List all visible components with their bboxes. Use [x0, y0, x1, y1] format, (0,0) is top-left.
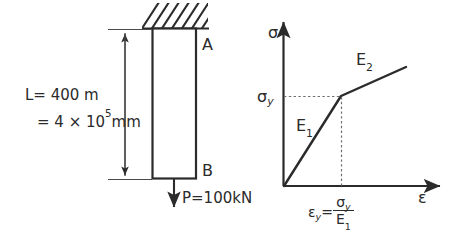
length-unit: mm: [112, 113, 141, 131]
sigma-y-label: σy: [257, 89, 274, 105]
length-label-line-1: L= 400 m: [25, 88, 99, 103]
equals-sign: =: [321, 204, 333, 220]
length-label-line-2: = 4 × 105mm: [37, 113, 141, 130]
e1-subscript: 1: [306, 127, 313, 140]
multiplication-sign: ×: [69, 113, 82, 131]
bar-member: [153, 29, 197, 179]
yield-strain-formula: εy= σy E1: [308, 196, 354, 230]
yield-strain-fraction: σy E1: [333, 195, 354, 229]
e2-subscript: 2: [366, 61, 373, 74]
length-base: 10: [81, 113, 105, 131]
numerator-sigma: σ: [336, 194, 345, 210]
fraction-denominator: E1: [333, 211, 354, 229]
bar-node-label-b: B: [202, 163, 213, 179]
epsilon-axis-label: ε: [418, 190, 427, 206]
sigma-axis-label: σ: [268, 25, 278, 41]
length-exponent: 5: [105, 108, 111, 119]
denominator-e-subscript: 1: [345, 221, 351, 232]
load-label: P=100kN: [182, 191, 252, 206]
length-prefix: = 4: [37, 113, 69, 131]
sigma-symbol: σ: [257, 87, 267, 106]
numerator-sigma-subscript: y: [345, 201, 351, 212]
denominator-e: E: [336, 211, 345, 227]
sigma-y-subscript: y: [267, 95, 273, 108]
epsilon-y-subscript: y: [316, 211, 322, 222]
e2-symbol: E: [356, 50, 366, 69]
fraction-numerator: σy: [333, 195, 354, 211]
engineering-figure: A B L= 400 m = 4 × 105mm P=100kN σ ε σy …: [0, 0, 470, 240]
modulus-e2-label: E2: [356, 52, 373, 72]
e1-symbol: E: [296, 116, 306, 135]
epsilon-y-symbol: ε: [308, 204, 316, 220]
modulus-e1-label: E1: [296, 118, 313, 138]
bar-node-label-a: A: [202, 37, 213, 53]
